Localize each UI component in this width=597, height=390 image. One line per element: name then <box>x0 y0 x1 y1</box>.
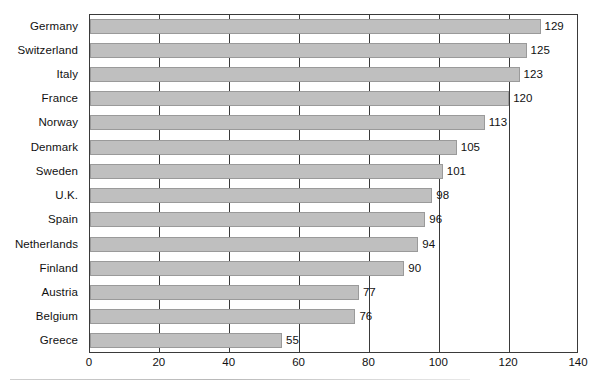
bar-value-label: 105 <box>461 140 480 155</box>
category-label: Germany <box>0 20 78 32</box>
x-tick-label: 100 <box>429 355 448 369</box>
x-tick-label: 80 <box>362 355 375 369</box>
bar <box>90 309 355 324</box>
category-label: Italy <box>0 68 78 80</box>
category-label: Denmark <box>0 141 78 153</box>
x-tick-label: 40 <box>222 355 235 369</box>
category-label: Austria <box>0 286 78 298</box>
category-label: Finland <box>0 262 78 274</box>
x-tick-label: 0 <box>86 355 92 369</box>
bar-value-label: 113 <box>489 115 507 130</box>
category-label: Norway <box>0 116 78 128</box>
bar-value-label: 120 <box>513 91 532 106</box>
bar <box>90 67 520 82</box>
bar-value-label: 76 <box>359 309 372 324</box>
bar <box>90 333 282 348</box>
bar-value-label: 77 <box>363 285 376 300</box>
x-tick-label: 60 <box>292 355 305 369</box>
category-label: U.K. <box>0 189 78 201</box>
bar-value-label: 94 <box>422 237 435 252</box>
bar <box>90 188 432 203</box>
category-label: Belgium <box>0 310 78 322</box>
category-axis: GermanySwitzerlandItalyFranceNorwayDenma… <box>0 14 84 353</box>
bar <box>90 115 485 130</box>
category-label: Sweden <box>0 165 78 177</box>
bar-value-label: 123 <box>524 67 543 82</box>
x-tick-label: 120 <box>499 355 518 369</box>
bar <box>90 19 541 34</box>
bar-series: 12912512312011310510198969490777655 <box>90 15 577 352</box>
bar <box>90 164 443 179</box>
category-label: Switzerland <box>0 44 78 56</box>
bar-chart: GermanySwitzerlandItalyFranceNorwayDenma… <box>0 0 597 390</box>
bar-value-label: 101 <box>447 164 466 179</box>
plot-area: 12912512312011310510198969490777655 <box>89 14 578 353</box>
bar <box>90 285 359 300</box>
category-label: Spain <box>0 213 78 225</box>
bar <box>90 237 418 252</box>
bar <box>90 91 509 106</box>
bar-value-label: 125 <box>531 43 550 58</box>
bar-value-label: 129 <box>545 19 564 34</box>
x-tick-label: 20 <box>152 355 165 369</box>
bar <box>90 140 457 155</box>
category-label: Netherlands <box>0 238 78 250</box>
category-label: Greece <box>0 334 78 346</box>
x-tick-label: 140 <box>568 355 587 369</box>
bar <box>90 261 404 276</box>
page-separator-rule <box>10 379 470 380</box>
bar <box>90 43 527 58</box>
bar-value-label: 98 <box>436 188 449 203</box>
x-axis: 020406080100120140 <box>89 355 578 377</box>
bar-value-label: 55 <box>286 333 299 348</box>
bar <box>90 212 425 227</box>
bar-value-label: 96 <box>429 212 442 227</box>
category-label: France <box>0 92 78 104</box>
bar-value-label: 90 <box>408 261 421 276</box>
